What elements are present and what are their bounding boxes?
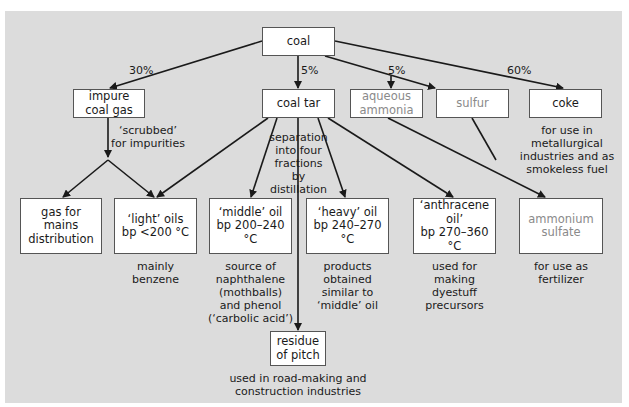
box-aqueous-ammonia: aqueous ammonia xyxy=(350,89,423,118)
box-ammonium-sulfate: ammonium sulfate xyxy=(519,198,603,254)
box-coke: coke xyxy=(529,89,602,118)
box-light-oils: ‘light’ oils bp <200 °C xyxy=(114,198,197,254)
annotation-light-use: mainly benzene xyxy=(114,260,197,286)
annotation-coke-use: for use in metallurgical industries and … xyxy=(512,124,622,176)
percentage-aqueous-ammonia: 5% xyxy=(388,64,405,77)
annotation-middle-use: source of naphthalene (mothballs) and ph… xyxy=(205,260,296,325)
box-coal-tar: coal tar xyxy=(262,89,335,118)
annotation-ammonium-use: for use as fertilizer xyxy=(519,260,603,286)
percentage-impure-coal-gas: 30% xyxy=(129,64,153,77)
box-middle-oil: ‘middle’ oil bp 200–240 °C xyxy=(209,198,292,254)
annotation-heavy-use: products obtained similar to ‘middle’ oi… xyxy=(306,260,389,312)
box-coal: coal xyxy=(262,27,335,56)
box-anthracene-oil: ‘anthracene oil’ bp 270–360 °C xyxy=(413,198,496,254)
box-sulfur: sulfur xyxy=(436,89,509,118)
box-gas-for-mains: gas for mains distribution xyxy=(20,198,102,254)
box-impure-coal-gas: impure coal gas xyxy=(73,89,145,118)
annotation-scrubbed: ‘scrubbed’ for impurities xyxy=(108,124,188,150)
box-heavy-oil: ‘heavy’ oil bp 240–270 °C xyxy=(306,198,389,254)
percentage-coke: 60% xyxy=(507,64,531,77)
annotation-separation: separation into four fractions by distil… xyxy=(262,131,335,196)
box-residue-of-pitch: residue of pitch xyxy=(270,331,326,366)
annotation-pitch-use: used in road-making and construction ind… xyxy=(228,372,368,398)
annotation-anthracene-use: used for making dyestuff precursors xyxy=(413,260,496,312)
percentage-coal-tar: 5% xyxy=(301,64,318,77)
